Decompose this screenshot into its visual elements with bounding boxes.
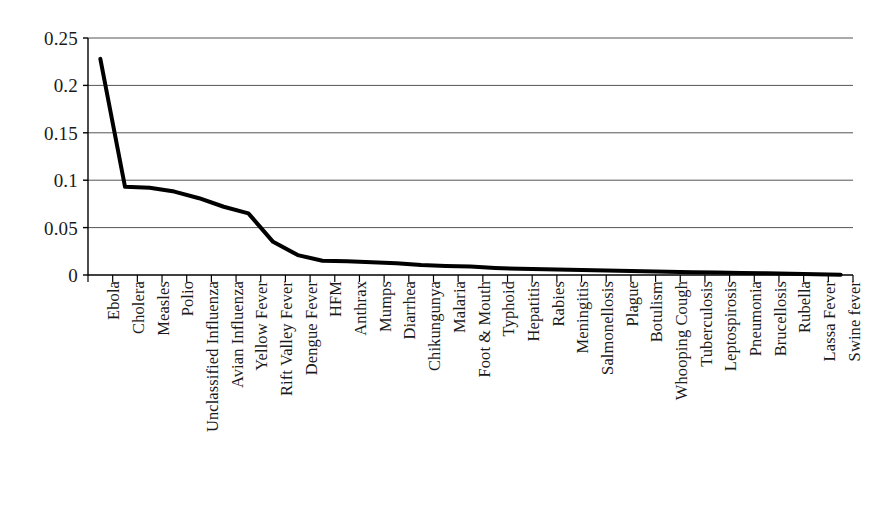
x-axis-tick-label: Mumps bbox=[378, 281, 395, 332]
x-axis-tick-label: Botulism bbox=[649, 281, 666, 342]
y-axis-tick-label: 0.2 bbox=[54, 76, 78, 95]
data-series-line bbox=[100, 59, 840, 275]
x-axis-tick-label: Yellow Fever bbox=[254, 281, 271, 371]
gridlines bbox=[88, 38, 853, 275]
y-axis-tick-label: 0.1 bbox=[54, 171, 78, 190]
x-axis-tick-label: Anthrax bbox=[353, 281, 370, 336]
plot-svg bbox=[88, 38, 853, 275]
x-axis-tick-label: Rabies bbox=[551, 281, 568, 327]
x-axis-tick-label: Brucellosis bbox=[773, 281, 790, 356]
x-axis-tick-label: Pneumonia bbox=[748, 281, 765, 356]
x-axis-tick-label: Ebola bbox=[106, 281, 123, 320]
y-axis-tick-label: 0.25 bbox=[44, 29, 78, 48]
x-axis-tick-label: Dengue Fever bbox=[304, 281, 321, 375]
y-axis-ticks bbox=[83, 38, 88, 275]
x-axis-tick-label: Swine fever bbox=[847, 281, 864, 361]
x-axis-tick-label: HFM bbox=[328, 281, 345, 317]
x-axis-tick-label: Leptospirosis bbox=[723, 281, 740, 371]
x-axis-tick-label: Unclassified Influenza bbox=[205, 281, 222, 432]
x-axis-tick-label: Diarrhea bbox=[402, 281, 419, 340]
x-axis-tick-label: Typhoid bbox=[501, 281, 518, 336]
x-axis-tick-label: Tuberculosis bbox=[699, 281, 716, 367]
y-axis-tick-label: 0 bbox=[68, 266, 78, 285]
x-axis-tick-label: Malaria bbox=[452, 281, 469, 333]
x-axis-tick-label: Rift Valley Fever bbox=[279, 281, 296, 396]
x-axis: EbolaCholeraMeaslesPolioUnclassified Inf… bbox=[88, 281, 853, 521]
x-axis-tick-label: Chikungunya bbox=[427, 281, 444, 371]
x-axis-tick-label: Whooping Cough bbox=[674, 281, 691, 400]
plot-area bbox=[88, 38, 853, 275]
x-axis-tick-label: Avian Influenza bbox=[230, 281, 247, 388]
y-axis: 0.250.20.150.10.050 bbox=[0, 0, 78, 524]
x-axis-tick-label: Meningitis bbox=[575, 281, 592, 354]
x-axis-tick-label: Rubella bbox=[797, 281, 814, 333]
x-axis-tick-label: Salmonellosis bbox=[600, 281, 617, 375]
chart-container: 0.250.20.150.10.050 EbolaCholeraMeaslesP… bbox=[0, 0, 881, 524]
x-axis-tick-label: Lassa Fever bbox=[822, 281, 839, 361]
y-axis-tick-label: 0.15 bbox=[44, 123, 78, 142]
x-axis-tick-label: Plague bbox=[625, 281, 642, 327]
x-axis-tick-label: Hepatitis bbox=[526, 281, 543, 341]
x-axis-tick-label: Foot & Mouth bbox=[477, 281, 494, 378]
x-axis-tick-label: Cholera bbox=[131, 281, 148, 334]
x-axis-tick-label: Polio bbox=[180, 281, 197, 316]
x-axis-tick-label: Measles bbox=[156, 281, 173, 336]
y-axis-tick-label: 0.05 bbox=[44, 218, 78, 237]
